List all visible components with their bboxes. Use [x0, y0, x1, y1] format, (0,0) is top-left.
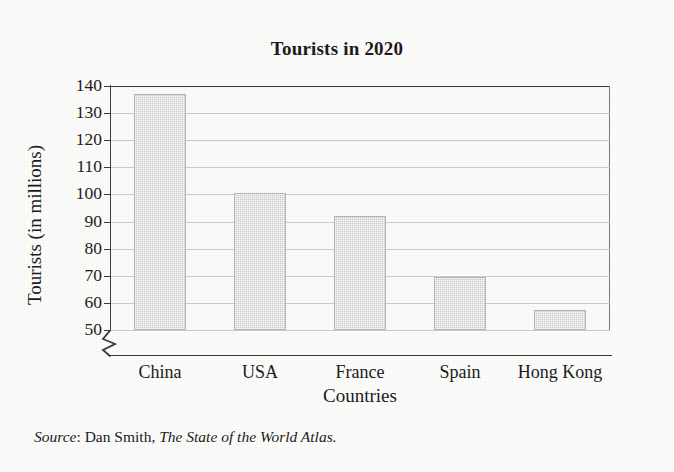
gridline-50 — [110, 330, 610, 331]
source-work: The State of the World Atlas. — [159, 428, 336, 445]
bar-spain — [434, 277, 486, 330]
x-axis-label: Countries — [110, 385, 610, 407]
bar-hong-kong — [534, 310, 586, 330]
y-tick-mark-70 — [104, 276, 111, 277]
y-tick-mark-130 — [104, 113, 111, 114]
y-tick-mark-120 — [104, 140, 111, 141]
plot-top-border — [110, 86, 610, 87]
bar-usa — [234, 193, 286, 330]
bar-chart-figure: Tourists in 2020 Tourists (in millions) … — [0, 0, 674, 472]
y-tick-label-50: 50 — [40, 321, 102, 339]
y-tick-mark-80 — [104, 249, 111, 250]
y-tick-mark-60 — [104, 303, 111, 304]
y-tick-label-80: 80 — [40, 240, 102, 258]
source-author: Dan Smith, — [85, 428, 160, 445]
y-tick-label-70: 70 — [40, 267, 102, 285]
y-tick-mark-110 — [104, 167, 111, 168]
plot-area — [110, 86, 610, 330]
source-separator: : — [76, 428, 84, 445]
y-tick-mark-140 — [104, 86, 111, 87]
x-tick-label-hong-kong: Hong Kong — [518, 362, 603, 383]
plot-right-border — [609, 86, 610, 330]
axis-break-icon — [101, 330, 123, 357]
y-tick-label-130: 130 — [40, 104, 102, 122]
y-tick-label-100: 100 — [40, 186, 102, 204]
bar-china — [134, 94, 186, 330]
source-label: Source — [34, 428, 76, 445]
x-axis-line — [108, 355, 612, 356]
x-tick-label-spain: Spain — [439, 362, 480, 383]
y-tick-label-60: 60 — [40, 294, 102, 312]
y-tick-label-120: 120 — [40, 131, 102, 149]
x-tick-label-france: France — [336, 362, 385, 383]
source-note: Source: Dan Smith, The State of the Worl… — [34, 428, 337, 446]
y-tick-label-90: 90 — [40, 213, 102, 231]
bar-france — [334, 216, 386, 330]
y-tick-label-110: 110 — [40, 159, 102, 177]
y-tick-mark-90 — [104, 222, 111, 223]
x-tick-label-usa: USA — [242, 362, 278, 383]
chart-title: Tourists in 2020 — [0, 38, 674, 60]
y-tick-mark-50 — [104, 330, 111, 331]
y-tick-mark-100 — [104, 194, 111, 195]
y-tick-label-140: 140 — [40, 77, 102, 95]
x-tick-label-china: China — [139, 362, 182, 383]
